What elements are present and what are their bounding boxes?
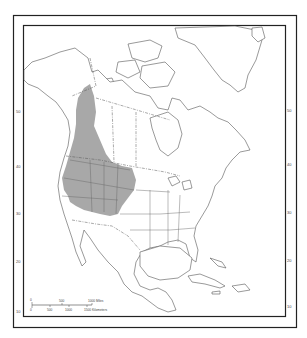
baffin-island	[140, 62, 175, 88]
bahamas	[210, 258, 226, 268]
svg-text:30: 30	[287, 210, 292, 215]
hispaniola	[232, 284, 250, 292]
svg-text:0: 0	[30, 308, 32, 312]
svg-text:20: 20	[16, 259, 21, 264]
arctic-island	[116, 60, 140, 78]
svg-text:50: 50	[287, 108, 292, 113]
latitude-labels-right: 50 40 30 20 10	[287, 108, 292, 309]
great-lake	[182, 180, 192, 190]
range-map: 50 40 30 20 10 50 40 30 20 10 0 500 1000…	[0, 0, 307, 338]
mainland	[24, 48, 250, 312]
greenland	[175, 26, 262, 92]
map-content	[24, 26, 265, 312]
arctic-island	[128, 40, 162, 62]
svg-text:1500 Kilometers: 1500 Kilometers	[84, 308, 107, 312]
svg-text:40: 40	[16, 164, 21, 169]
latitude-labels-left: 50 40 30 20 10	[16, 109, 21, 314]
svg-text:10: 10	[287, 304, 292, 309]
svg-text:20: 20	[287, 258, 292, 263]
svg-text:30: 30	[16, 211, 21, 216]
scale-bar: 0 500 1000 Miles 0 500 1000 1500 Kilomet…	[30, 298, 107, 312]
svg-text:0: 0	[30, 298, 32, 302]
svg-text:40: 40	[287, 162, 292, 167]
svg-text:1000: 1000	[65, 308, 72, 312]
svg-text:1000 Miles: 1000 Miles	[88, 299, 104, 303]
svg-text:10: 10	[16, 309, 21, 314]
svg-text:50: 50	[16, 109, 21, 114]
svg-text:500: 500	[47, 308, 53, 312]
gulf-of-mexico	[140, 246, 192, 280]
jamaica	[212, 291, 220, 294]
svg-text:500: 500	[59, 299, 65, 303]
cuba	[188, 274, 225, 288]
